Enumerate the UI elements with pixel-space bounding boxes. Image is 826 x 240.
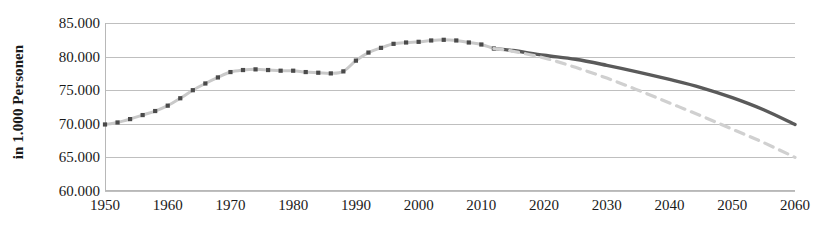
data-point-marker [216, 75, 220, 79]
series-solid [494, 49, 795, 125]
data-point-marker [115, 120, 119, 124]
population-projection-chart: in 1.000 Personen 85.00080.00075.00070.0… [0, 0, 826, 240]
data-point-marker [203, 81, 207, 85]
x-axis-tick-label: 2050 [717, 196, 747, 214]
x-axis-tick-label: 2030 [592, 196, 622, 214]
data-point-marker [354, 59, 358, 63]
data-point-marker [341, 69, 345, 73]
data-point-marker [366, 50, 370, 54]
data-point-marker [404, 40, 408, 44]
data-point-marker [417, 40, 421, 44]
y-axis-tick-label: 85.000 [34, 16, 100, 31]
data-point-marker [178, 96, 182, 100]
data-point-marker [391, 42, 395, 46]
series-dotted-with-square-markers [103, 38, 496, 127]
data-point-marker [141, 113, 145, 117]
y-axis-tick-label: 65.000 [34, 150, 100, 165]
data-point-marker [379, 46, 383, 50]
data-point-marker [329, 71, 333, 75]
data-point-marker [316, 71, 320, 75]
data-point-marker [153, 109, 157, 113]
data-point-marker [479, 42, 483, 46]
data-point-marker [253, 67, 257, 71]
x-axis-tick-label: 2020 [529, 196, 559, 214]
data-point-marker [166, 104, 170, 108]
data-point-marker [103, 122, 107, 126]
data-point-marker [228, 70, 232, 74]
data-point-marker [279, 69, 283, 73]
data-point-marker [454, 38, 458, 42]
x-axis-tick-label: 1990 [341, 196, 371, 214]
data-point-marker [467, 40, 471, 44]
data-point-marker [429, 38, 433, 42]
y-axis-tick-label: 80.000 [34, 49, 100, 64]
y-axis-tick-label: 70.000 [34, 116, 100, 131]
x-axis-tick-label: 1950 [90, 196, 120, 214]
x-axis-tick-label: 1980 [278, 196, 308, 214]
data-point-marker [266, 68, 270, 72]
x-axis-tick-labels: 1950196019701980199020002010202020302040… [105, 196, 795, 220]
data-point-marker [191, 88, 195, 92]
y-axis-tick-label: 75.000 [34, 83, 100, 98]
plot-area [105, 23, 795, 191]
x-axis-tick-label: 1960 [153, 196, 183, 214]
x-axis-tick-label: 2040 [655, 196, 685, 214]
x-axis-tick-label: 2000 [404, 196, 434, 214]
data-point-marker [128, 117, 132, 121]
y-axis-title: in 1.000 Personen [0, 0, 36, 222]
series-layer [105, 23, 795, 191]
data-point-marker [442, 38, 446, 42]
gridline [105, 191, 795, 192]
x-axis-tick-label: 1970 [215, 196, 245, 214]
data-point-marker [291, 69, 295, 73]
data-point-marker [241, 68, 245, 72]
x-axis-tick-label: 2010 [466, 196, 496, 214]
data-point-marker [304, 70, 308, 74]
x-axis-tick-label: 2060 [780, 196, 810, 214]
